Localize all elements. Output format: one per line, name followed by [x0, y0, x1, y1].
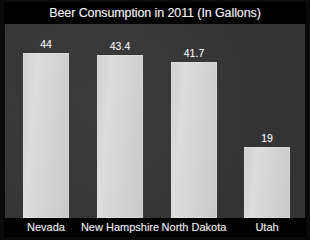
bar-north-dakota: [171, 62, 217, 218]
bar-nevada: [23, 53, 69, 218]
bar-group-2: 41.7: [171, 23, 217, 218]
bar-group-3: 19: [244, 23, 290, 218]
chart-title-band: Beer Consumption in 2011 (In Gallons): [4, 2, 306, 24]
bar-value-label-0: 44: [40, 39, 52, 50]
plot-area: 44 43.4 41.7 19: [5, 23, 305, 218]
bar-group-1: 43.4: [97, 23, 143, 218]
bar-group-0: 44: [23, 23, 69, 218]
category-label-utah: Utah: [207, 220, 310, 235]
bar-utah: [244, 147, 290, 218]
bar-value-label-2: 41.7: [184, 48, 204, 59]
bar-value-label-3: 19: [261, 133, 273, 144]
bar-chart: Beer Consumption in 2011 (In Gallons) 44…: [0, 0, 310, 240]
bar-value-label-1: 43.4: [110, 41, 130, 52]
bar-new-hampshire: [97, 55, 143, 218]
category-axis-band: Nevada New Hampshire North Dakota Utah: [4, 218, 306, 237]
chart-title: Beer Consumption in 2011 (In Gallons): [49, 6, 260, 20]
